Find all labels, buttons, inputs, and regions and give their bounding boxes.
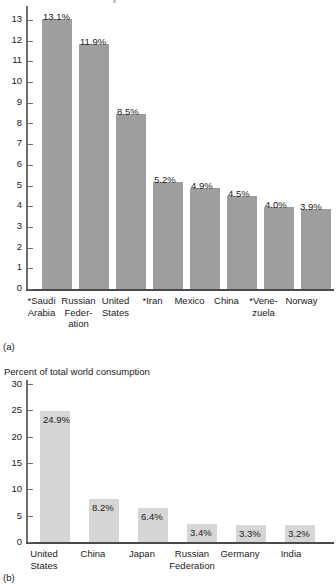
chart-a-value-1: 11.9% [80, 37, 106, 47]
chart-a-ytick-label-10: 10 [0, 76, 22, 86]
chart-a-value-0: 13.1% [43, 12, 70, 22]
chart-a-ytick-label-11: 11 [0, 55, 22, 65]
chart-a-category-3: *Iran [132, 295, 173, 307]
chart-a-ytick-6 [28, 165, 33, 166]
chart-b-value-1: 8.2% [92, 503, 114, 513]
chart-a-ytick-label-7: 7 [0, 138, 22, 148]
chart-a-ytick-label-0: 0 [0, 283, 22, 293]
chart-a-ytick-2 [28, 248, 33, 249]
chart-b-ytick-label-0: 0 [0, 537, 22, 547]
chart-a-bar-4 [190, 188, 220, 289]
chart-a-y-axis [26, 6, 28, 289]
chart-b-y-axis [26, 380, 28, 542]
chart-a-bar-0 [42, 19, 72, 289]
chart-b-ytick-20 [28, 437, 33, 438]
chart-a-ytick-8 [28, 123, 33, 124]
chart-a-ytick-label-1: 1 [0, 262, 22, 272]
chart-a-value-4: 4.9% [191, 181, 213, 191]
chart-b-category-0: United States [17, 548, 71, 571]
chart-a-ytick-5 [28, 186, 33, 187]
chart-a-ytick-13 [28, 20, 33, 21]
chart-a-plot [26, 6, 334, 289]
chart-b-category-5: India [264, 548, 318, 560]
chart-a-category-4: Mexico [169, 295, 210, 307]
figure-panel-b: Percent of total world consumption 30 25… [0, 366, 336, 587]
chart-b-value-0: 24.9% [43, 415, 70, 425]
chart-b-x-axis [26, 542, 334, 544]
chart-a-category-6: *Vene- zuela [243, 295, 284, 318]
panel-a-tag: (a) [3, 341, 15, 352]
chart-a-bar-1 [79, 44, 109, 289]
chart-b-category-4: Germany [211, 548, 269, 560]
chart-a-x-axis [26, 289, 334, 291]
chart-a-ytick-12 [28, 41, 33, 42]
chart-b-ytick-25 [28, 410, 33, 411]
chart-a-ytick-label-12: 12 [0, 35, 22, 45]
chart-a-category-5: China [206, 295, 247, 307]
chart-a-value-7: 3.9% [300, 202, 322, 212]
chart-b-ytick-30 [28, 384, 33, 385]
chart-a-ytick-10 [28, 82, 33, 83]
chart-a-ytick-0 [28, 289, 33, 290]
chart-a-bar-6 [264, 207, 294, 289]
chart-a-ytick-7 [28, 144, 33, 145]
chart-a-category-2: United States [95, 295, 136, 318]
chart-a-bar-3 [153, 182, 183, 289]
chart-b-title: Percent of total world consumption [4, 366, 150, 377]
chart-b-ytick-label-5: 5 [0, 511, 22, 521]
chart-a-ytick-11 [28, 61, 33, 62]
chart-a-bar-2 [116, 114, 146, 289]
chart-a-category-0: *Saudi Arabia [21, 295, 62, 318]
chart-b-value-4: 3.3% [239, 529, 261, 539]
chart-a-value-5: 4.5% [228, 189, 250, 199]
chart-b-ytick-label-10: 10 [0, 484, 22, 494]
chart-b-value-5: 3.2% [288, 529, 310, 539]
chart-a-ytick-3 [28, 227, 33, 228]
chart-a-bar-5 [227, 196, 257, 289]
chart-a-category-7: Norway [280, 295, 323, 307]
chart-b-ytick-10 [28, 489, 33, 490]
chart-b-ytick-label-25: 25 [0, 405, 22, 415]
chart-a-ytick-9 [28, 103, 33, 104]
chart-a-category-1: Russian Feder- ation [58, 295, 99, 330]
chart-b-ytick-0 [28, 542, 33, 543]
cropped-title-artifact [113, 0, 116, 3]
chart-b-ytick-label-15: 15 [0, 458, 22, 468]
chart-a-ytick-label-9: 9 [0, 97, 22, 107]
chart-b-value-2: 6.4% [141, 512, 163, 522]
chart-a-value-2: 8.5% [117, 107, 139, 117]
chart-a-value-6: 4.0% [265, 200, 287, 210]
chart-a-ytick-label-5: 5 [0, 180, 22, 190]
chart-a-ytick-label-13: 13 [0, 14, 22, 24]
chart-b-ytick-label-30: 30 [0, 379, 22, 389]
chart-b-ytick-5 [28, 516, 33, 517]
chart-a-bar-7 [301, 209, 331, 289]
chart-b-ytick-label-20: 20 [0, 432, 22, 442]
chart-b-plot [26, 380, 334, 542]
chart-b-value-3: 3.4% [190, 528, 212, 538]
figure-panel-a: 13 12 11 10 9 8 7 6 5 4 3 2 1 0 13.1% 11… [0, 0, 336, 360]
panel-b-tag: (b) [3, 572, 15, 583]
chart-b-ytick-15 [28, 463, 33, 464]
chart-a-ytick-1 [28, 268, 33, 269]
chart-a-ytick-label-3: 3 [0, 221, 22, 231]
chart-a-ytick-4 [28, 206, 33, 207]
chart-a-ytick-label-6: 6 [0, 159, 22, 169]
chart-a-value-3: 5.2% [154, 175, 176, 185]
chart-a-ytick-label-4: 4 [0, 200, 22, 210]
chart-b-category-1: China [66, 548, 120, 560]
chart-a-ytick-label-2: 2 [0, 242, 22, 252]
chart-b-bar-0 [40, 411, 70, 542]
chart-a-ytick-label-8: 8 [0, 118, 22, 128]
